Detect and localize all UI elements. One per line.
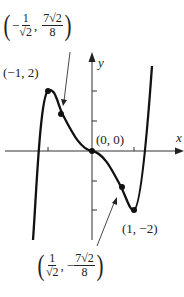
origin-point — [89, 148, 95, 154]
x-axis-arrow-icon — [175, 148, 184, 155]
relative-max-label: (−1, 2) — [3, 66, 39, 79]
denominator: 8 — [81, 266, 87, 279]
inflection-label-left: ( − 1 √2 , 7√2 8 ) — [2, 10, 73, 40]
origin-label: (0, 0) — [96, 133, 124, 146]
relative-max-point — [45, 88, 51, 94]
fraction-y: 7√2 8 — [42, 12, 63, 38]
numerator: 1 — [22, 12, 30, 26]
inflection-point-right — [119, 184, 125, 190]
fraction-x: 1 √2 — [19, 12, 32, 38]
denominator: 8 — [49, 26, 55, 39]
numerator: 7√2 — [42, 12, 63, 26]
y-axis-arrow-icon — [89, 52, 96, 62]
pointer-arrow-right-icon — [112, 197, 117, 205]
paren-close: ) — [64, 10, 71, 40]
pointer-arrow-left-icon — [61, 99, 67, 106]
pointer-line-right — [97, 203, 114, 246]
denominator: √2 — [46, 266, 59, 279]
comma: , — [61, 259, 64, 272]
fraction-x: 1 √2 — [46, 252, 59, 278]
sign: − — [67, 259, 74, 272]
relative-min-point — [131, 207, 137, 213]
inflection-point-left — [58, 111, 64, 117]
denominator: √2 — [19, 26, 32, 39]
paren-open: ( — [38, 250, 45, 280]
fraction-y: 7√2 8 — [74, 252, 95, 278]
relative-min-label: (1, −2) — [122, 222, 158, 235]
paren-close: ) — [96, 250, 103, 280]
sign: − — [12, 19, 19, 32]
numerator: 1 — [48, 252, 56, 266]
paren-open: ( — [4, 10, 11, 40]
pointer-line-left — [64, 52, 70, 101]
x-axis-label: x — [176, 131, 182, 144]
comma: , — [34, 19, 37, 32]
inflection-label-right: ( 1 √2 , − 7√2 8 ) — [36, 250, 105, 280]
numerator: 7√2 — [74, 252, 95, 266]
y-axis-label: y — [98, 56, 104, 69]
